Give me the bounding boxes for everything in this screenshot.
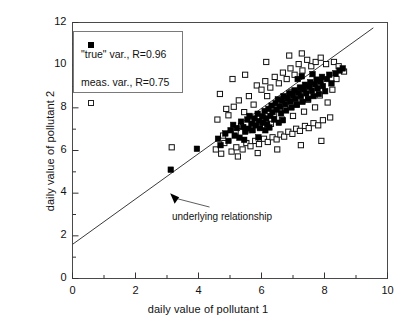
open-square-icon — [88, 100, 94, 106]
x-tick-label: 10 — [374, 284, 402, 296]
y-tick-label: 4 — [37, 185, 67, 197]
y-tick-label: 6 — [37, 143, 67, 155]
y-tick-label: 2 — [37, 228, 67, 240]
x-tick-label: 2 — [122, 284, 150, 296]
y-tick-label: 12 — [37, 15, 67, 27]
y-tick-label: 10 — [37, 57, 67, 69]
x-tick-label: 8 — [311, 284, 339, 296]
x-axis-label: daily value of pollutant 1 — [0, 303, 416, 315]
y-tick-label: 0 — [37, 271, 67, 283]
x-tick-label: 4 — [185, 284, 213, 296]
legend-label-true-var: "true" var., R=0.96 — [81, 48, 166, 60]
legend: "true" var., R=0.96 meas. var., R=0.75 — [73, 31, 183, 93]
legend-label-meas-var: meas. var., R=0.75 — [81, 76, 169, 88]
x-tick-label: 6 — [248, 284, 276, 296]
annotation-underlying-relationship: underlying relationship — [172, 211, 272, 222]
x-tick-label: 0 — [59, 284, 87, 296]
y-tick-label: 8 — [37, 100, 67, 112]
